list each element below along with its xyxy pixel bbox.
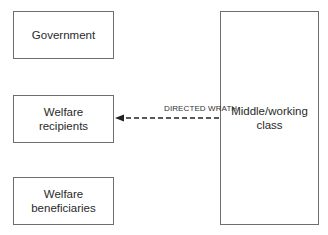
- edge-label: DIRECTED WRATH: [164, 104, 237, 113]
- arrowhead-icon: [115, 115, 124, 122]
- directed-wrath-arrow: [0, 0, 328, 235]
